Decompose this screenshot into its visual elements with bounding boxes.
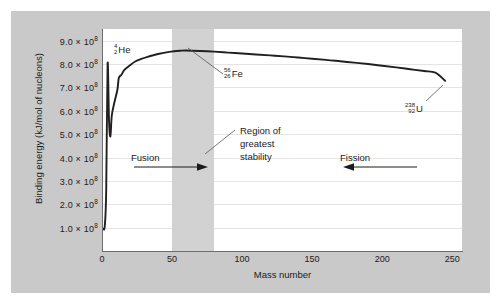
iron-mass-number: 56 <box>224 67 231 73</box>
region-of-greatest-stability-label: Region of greatest stability <box>240 124 281 163</box>
annotation-helium: 4 2 He <box>114 43 131 56</box>
fusion-label: Fusion <box>131 152 160 163</box>
y-tick-label-5: 6.0 × 108 <box>60 105 98 117</box>
iron-symbol: Fe <box>232 69 243 79</box>
annotation-iron: 56 26 Fe <box>224 67 243 80</box>
figure-panel: 1.0 × 1082.0 × 1083.0 × 1084.0 × 1085.0 … <box>11 11 490 293</box>
x-tick-label-3: 150 <box>305 254 320 264</box>
plot-area: 4 2 He 56 26 Fe 238 92 U <box>102 29 462 251</box>
y-axis-title: Binding energy (kJ/mol of nucleons) <box>33 34 44 224</box>
y-tick-label-7: 8.0 × 108 <box>60 58 98 70</box>
helium-atomic-number: 2 <box>114 49 117 55</box>
region-label-line1: Region of <box>240 124 281 137</box>
x-tick-label-4: 200 <box>375 254 390 264</box>
x-tick-label-0: 0 <box>99 254 104 264</box>
y-tick-label-4: 5.0 × 108 <box>60 128 98 140</box>
y-tick-label-3: 4.0 × 108 <box>60 152 98 164</box>
y-tick-label-0: 1.0 × 108 <box>60 222 98 234</box>
region-label-line3: stability <box>240 150 281 163</box>
x-axis-title: Mass number <box>102 269 463 280</box>
y-axis-spine <box>102 29 103 252</box>
helium-symbol: He <box>118 45 130 55</box>
plot-inner: 4 2 He 56 26 Fe 238 92 U <box>102 29 462 251</box>
uranium-mass-number: 238 <box>405 102 415 108</box>
y-tick-label-8: 9.0 × 108 <box>60 35 98 47</box>
y-tick-label-6: 7.0 × 108 <box>60 81 98 93</box>
annotation-uranium-numbers: 238 92 <box>405 102 415 115</box>
fission-label: Fission <box>340 152 370 163</box>
x-tick-label-5: 250 <box>445 254 460 264</box>
y-tick-label-2: 3.0 × 108 <box>60 175 98 187</box>
uranium-symbol: U <box>416 104 423 114</box>
x-tick-label-1: 50 <box>167 254 177 264</box>
binding-energy-curve <box>102 29 462 251</box>
helium-mass-number: 4 <box>114 43 117 49</box>
y-tick-label-1: 2.0 × 108 <box>60 198 98 210</box>
iron-atomic-number: 26 <box>224 73 231 79</box>
annotation-helium-numbers: 4 2 <box>114 43 117 56</box>
x-tick-label-2: 100 <box>235 254 250 264</box>
x-axis-tick-labels: 050100150200250 <box>102 254 463 270</box>
region-label-line2: greatest <box>240 137 281 150</box>
x-axis-spine <box>102 251 463 252</box>
annotation-iron-numbers: 56 26 <box>224 67 231 80</box>
annotation-uranium: 238 92 U <box>405 102 423 115</box>
uranium-atomic-number: 92 <box>408 108 415 114</box>
